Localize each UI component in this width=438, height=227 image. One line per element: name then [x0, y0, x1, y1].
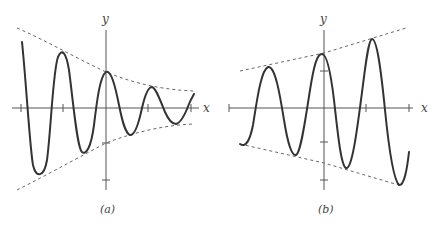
x-label-b: x	[421, 101, 428, 115]
plot-a: y x (a)	[12, 12, 210, 216]
y-label-b: y	[319, 12, 327, 26]
y-label-a: y	[101, 12, 109, 26]
caption-b: (b)	[318, 203, 334, 216]
upper-envelope-b	[240, 28, 406, 71]
figure: y x (a) y x (b)	[0, 0, 438, 227]
plot-b: y x (b)	[229, 12, 428, 216]
caption-a: (a)	[100, 203, 115, 216]
x-label-a: x	[203, 101, 210, 115]
